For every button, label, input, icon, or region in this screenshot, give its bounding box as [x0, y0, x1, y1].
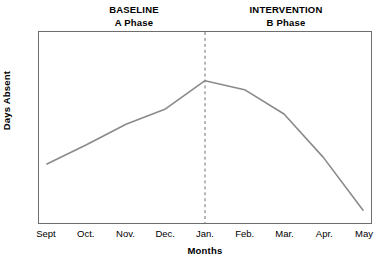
phase-intervention-title: INTERVENTION	[216, 4, 356, 17]
phase-baseline-title: BASELINE	[76, 4, 192, 17]
x-axis-tick-label: May	[339, 228, 389, 239]
plot-canvas	[39, 32, 371, 223]
phase-label-intervention: INTERVENTION B Phase	[216, 4, 356, 29]
phase-intervention-subtitle: B Phase	[216, 17, 356, 30]
plot-area	[38, 31, 372, 224]
y-axis-title: Days Absent	[1, 51, 12, 151]
chart-figure: BASELINE A Phase INTERVENTION B Phase Da…	[0, 0, 392, 262]
phase-baseline-subtitle: A Phase	[76, 17, 192, 30]
x-axis-title: Months	[38, 245, 372, 256]
phase-label-baseline: BASELINE A Phase	[76, 4, 192, 29]
